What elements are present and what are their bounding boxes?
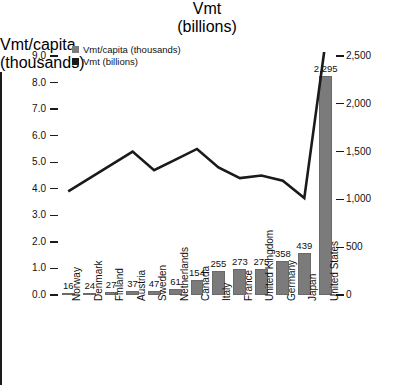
x-axis-category-label: Canada bbox=[201, 266, 211, 301]
line-series-path bbox=[68, 40, 326, 198]
chart-container: Vmt (billions) Vmt/capita (thousands) Vm… bbox=[0, 0, 414, 385]
bar-value-label: 2,295 bbox=[308, 64, 343, 74]
x-axis-category-label: Italy bbox=[222, 283, 232, 301]
bar-value-label: 439 bbox=[287, 241, 322, 251]
x-axis-category-label: Austria bbox=[137, 270, 147, 301]
x-axis-category-label: Germany bbox=[287, 260, 297, 301]
x-axis-category-label: France bbox=[244, 270, 254, 301]
x-axis-category-label: Denmark bbox=[94, 260, 104, 301]
x-axis-category-label: Finland bbox=[115, 268, 125, 301]
x-axis-category-label: Norway bbox=[72, 267, 82, 301]
x-axis-category-label: Sweden bbox=[158, 265, 168, 301]
x-axis-category-label: Netherlands bbox=[180, 247, 190, 301]
x-axis-category-label: United States bbox=[330, 241, 340, 301]
line-series-layer bbox=[0, 0, 414, 385]
x-axis-category-label: Japan bbox=[308, 274, 318, 301]
x-axis-category-label: United Kingdom bbox=[265, 230, 275, 301]
